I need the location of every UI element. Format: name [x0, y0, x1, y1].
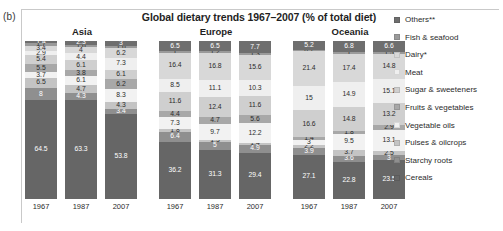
bar-segment[interactable]: 6.1: [65, 76, 97, 86]
bar-segment[interactable]: 5.4: [25, 55, 57, 63]
chart-title: Global dietary trends 1967–2007 (% of to…: [128, 11, 390, 23]
legend-item[interactable]: Dairy*: [394, 49, 499, 60]
bar-segment[interactable]: 11.6: [159, 92, 191, 110]
plot-area: Asia64.586.53.75.55.42.93.41.71.463.34.3…: [21, 26, 391, 223]
legend-label: Sugar & sweeteners: [405, 85, 477, 94]
stacked-bar[interactable]: 31.351.39.74.712.411.116.81.26.5: [199, 41, 231, 199]
stacked-bar[interactable]: 27.13.92.231.416.61521.40.75.2: [293, 41, 325, 199]
legend-label: Cereals: [405, 173, 433, 182]
bar-segment-value: 4.7: [210, 117, 219, 124]
bar-segment[interactable]: 21.4: [293, 51, 325, 86]
stacked-bar[interactable]: 64.586.53.75.55.42.93.41.71.4: [25, 41, 57, 199]
stacked-bar[interactable]: 36.26.41.87.34.411.68.516.416.5: [159, 41, 191, 199]
legend-swatch-icon: [394, 87, 400, 93]
bar-segment[interactable]: 14.8: [333, 107, 365, 131]
bar-segment[interactable]: 8.5: [159, 79, 191, 92]
bar-segment[interactable]: 5: [199, 142, 231, 150]
bar-segment[interactable]: 16.6: [293, 110, 325, 137]
legend-item[interactable]: Fruits & vegetables: [394, 102, 499, 113]
bar-segment[interactable]: 6.1: [105, 70, 137, 80]
bar-segment[interactable]: 6.2: [105, 79, 137, 89]
bar-segment[interactable]: 9.7: [199, 124, 231, 139]
region-group-oceania: Oceania27.13.92.231.416.61521.40.75.222.…: [289, 26, 411, 223]
bars-row: 36.26.41.87.34.411.68.516.416.531.351.39…: [155, 41, 277, 199]
bar-segment-value: 11.6: [249, 102, 262, 109]
bar-segment[interactable]: 6.5: [199, 41, 231, 51]
year-axis: 196719872007: [289, 202, 411, 211]
chart-legend: Others**Fish & seafoodDairy*MeatSugar & …: [394, 14, 499, 214]
bar-segment-value: 9.5: [344, 138, 353, 145]
bar-segment[interactable]: 15.6: [239, 55, 271, 80]
bar-segment[interactable]: 12.2: [239, 123, 271, 142]
bar-segment-value: 8.5: [170, 82, 179, 89]
bar-segment[interactable]: 15: [293, 86, 325, 111]
bar-segment-value: 4.3: [116, 102, 125, 109]
bar-segment[interactable]: 12.4: [199, 97, 231, 117]
legend-item[interactable]: Starchy roots: [394, 155, 499, 166]
bar-segment[interactable]: 4.3: [65, 93, 97, 100]
bar-segment[interactable]: 6.1: [65, 60, 97, 70]
legend-label: Meat: [405, 68, 423, 77]
bar-segment[interactable]: 53.8: [105, 114, 137, 199]
legend-item[interactable]: Fish & seafood: [394, 32, 499, 43]
bar-segment[interactable]: 4.9: [239, 145, 271, 153]
legend-item[interactable]: Sugar & sweeteners: [394, 84, 499, 95]
bar-segment[interactable]: 6.2: [105, 48, 137, 58]
bar-segment-value: 15.6: [248, 64, 261, 71]
bar-segment[interactable]: 16.4: [159, 53, 191, 79]
bar-segment-value: 17.4: [342, 65, 355, 72]
legend-item[interactable]: Others**: [394, 14, 499, 25]
bar-segment[interactable]: 9.5: [333, 134, 365, 150]
bar-segment[interactable]: 63.3: [65, 100, 97, 199]
bar-segment[interactable]: 27.1: [293, 155, 325, 199]
bar-segment[interactable]: 5.6: [239, 115, 271, 124]
legend-item[interactable]: Pulses & oilcrops: [394, 137, 499, 148]
bar-segment[interactable]: 5.5: [25, 64, 57, 72]
bar-segment[interactable]: 36.2: [159, 142, 191, 199]
bar-segment[interactable]: 11.1: [199, 80, 231, 98]
region-title: Oceania: [289, 26, 411, 35]
bar-segment[interactable]: 6.8: [333, 41, 365, 52]
bar-segment-value: 4.3: [76, 93, 85, 100]
legend-item[interactable]: Vegetable oils: [394, 120, 499, 131]
bar-segment[interactable]: 6.4: [159, 132, 191, 142]
bar-segment[interactable]: 22.8: [333, 162, 365, 199]
bar-segment[interactable]: 4.3: [105, 102, 137, 109]
legend-item[interactable]: Meat: [394, 67, 499, 78]
bar-segment-value: 4.7: [76, 86, 85, 93]
bar-segment[interactable]: 7.7: [239, 41, 271, 53]
bar-segment-value: 11.6: [169, 98, 182, 105]
bar-segment[interactable]: 11.6: [239, 96, 271, 114]
legend-swatch-icon: [394, 140, 400, 146]
bar-segment[interactable]: 6.5: [159, 41, 191, 51]
bar-segment-value: 15: [305, 95, 313, 102]
stacked-bar[interactable]: 29.44.91.412.25.611.610.315.61.37.7: [239, 41, 271, 199]
bar-segment-value: 8: [39, 91, 43, 98]
stacked-bar[interactable]: 63.34.34.76.13.86.14.441.62.3: [65, 41, 97, 199]
bar-segment[interactable]: 31.3: [199, 150, 231, 199]
bar-segment-value: 11.1: [209, 85, 222, 92]
bar-segment[interactable]: 29.4: [239, 153, 271, 199]
legend-item[interactable]: Cereals: [394, 172, 499, 183]
bar-segment[interactable]: 7.3: [159, 117, 191, 129]
bar-segment[interactable]: 8.3: [105, 89, 137, 102]
bars-row: 27.13.92.231.416.61521.40.75.222.83.63.7…: [289, 41, 411, 199]
bar-segment[interactable]: 5.2: [293, 41, 325, 50]
bar-segment[interactable]: 17.4: [333, 54, 365, 83]
bar-segment[interactable]: 8: [25, 88, 57, 100]
stacked-bar[interactable]: 22.83.63.79.51.814.814.917.416.8: [333, 41, 365, 199]
bar-segment[interactable]: 4.7: [199, 117, 231, 124]
bar-segment[interactable]: 6.5: [25, 78, 57, 88]
bar-segment[interactable]: 4.4: [65, 53, 97, 60]
bar-segment[interactable]: 10.3: [239, 80, 271, 96]
bar-segment[interactable]: 16.8: [199, 53, 231, 80]
bar-segment-value: 12.2: [248, 130, 261, 137]
bar-segment[interactable]: 4.7: [65, 85, 97, 92]
bar-segment[interactable]: 7.3: [105, 58, 137, 70]
year-tick-label: 1967: [25, 202, 57, 211]
stacked-bar[interactable]: 53.83.44.38.36.26.17.36.21.63: [105, 41, 137, 199]
bar-segment[interactable]: 14.9: [333, 82, 365, 106]
bar-segment[interactable]: 64.5: [25, 100, 57, 199]
bar-segment[interactable]: 4.4: [159, 111, 191, 118]
bar-segment-value: 16.6: [302, 121, 315, 128]
